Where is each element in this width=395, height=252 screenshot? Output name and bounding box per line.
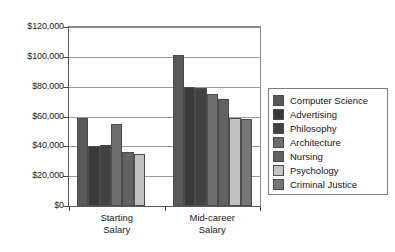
legend-item-label: Psychology	[290, 165, 339, 176]
legend-swatch-icon	[273, 179, 284, 190]
x-axis-tick	[165, 206, 166, 211]
legend-item: Criminal Justice	[273, 177, 384, 191]
bar	[134, 154, 145, 206]
legend: Computer ScienceAdvertisingPhilosophyArc…	[268, 88, 388, 195]
bar	[218, 99, 229, 206]
bar	[173, 55, 184, 206]
legend-item-label: Philosophy	[290, 123, 336, 134]
legend-item: Advertising	[273, 107, 384, 121]
bar	[195, 88, 206, 206]
legend-item-label: Computer Science	[290, 95, 368, 106]
x-axis-category-label: Starting Salary	[72, 212, 162, 236]
x-axis-tick	[260, 206, 261, 211]
y-axis-tick-label: $40,000	[2, 141, 64, 150]
legend-swatch-icon	[273, 165, 284, 176]
y-axis-tick-label: $20,000	[2, 171, 64, 180]
bar	[207, 94, 218, 206]
y-axis-tick-label: $80,000	[2, 82, 64, 91]
legend-item: Computer Science	[273, 93, 384, 107]
legend-item-label: Criminal Justice	[290, 179, 357, 190]
bars-layer	[69, 27, 260, 206]
plot-area	[68, 26, 261, 207]
legend-item-label: Architecture	[290, 137, 341, 148]
y-axis-tick-label: $0	[2, 201, 64, 210]
x-axis-tick	[69, 206, 70, 211]
legend-swatch-icon	[273, 95, 284, 106]
legend-item-label: Advertising	[290, 109, 337, 120]
y-axis-tick-label: $120,000	[2, 22, 64, 31]
legend-swatch-icon	[273, 123, 284, 134]
legend-item: Architecture	[273, 135, 384, 149]
legend-item-label: Nursing	[290, 151, 323, 162]
bar-chart: $0$20,000$40,000$60,000$80,000$100,000$1…	[0, 0, 395, 252]
legend-swatch-icon	[273, 109, 284, 120]
bar	[184, 87, 195, 206]
legend-swatch-icon	[273, 151, 284, 162]
bar	[111, 124, 122, 206]
y-axis-tick-label: $100,000	[2, 52, 64, 61]
legend-item: Philosophy	[273, 121, 384, 135]
legend-item: Nursing	[273, 149, 384, 163]
bar	[100, 145, 111, 206]
y-axis-tick-label: $60,000	[2, 112, 64, 121]
x-axis-category-label: Mid-career Salary	[167, 212, 257, 236]
legend-item: Psychology	[273, 163, 384, 177]
bar	[77, 118, 88, 206]
bar	[229, 118, 240, 206]
bar	[88, 146, 99, 206]
legend-swatch-icon	[273, 137, 284, 148]
bar	[122, 152, 133, 206]
bar	[241, 119, 252, 206]
